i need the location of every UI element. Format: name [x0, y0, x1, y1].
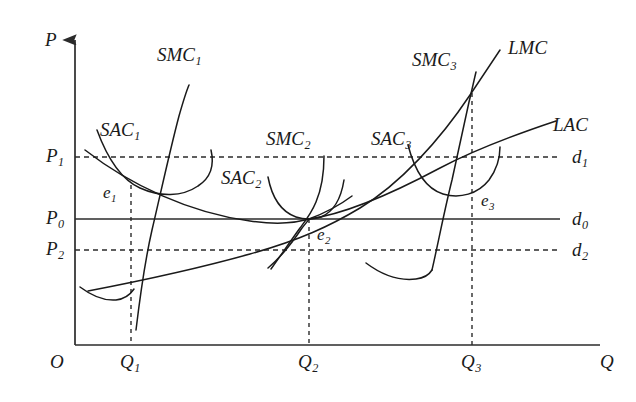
- origin-label: O: [50, 352, 64, 371]
- curve-smc-1: [136, 85, 189, 330]
- demand-label-d2: d2: [572, 240, 588, 259]
- curve-smc-3: [432, 72, 476, 270]
- curve-label-smc-2: SMC2: [266, 129, 310, 148]
- curve-label-lmc: LMC: [508, 38, 547, 57]
- curve-lmc: [88, 50, 500, 291]
- curve-label-smc-1: SMC1: [157, 45, 201, 64]
- diagram-canvas: [0, 0, 636, 402]
- curve-plant1-base: [80, 287, 134, 300]
- price-tick-p1: P1: [46, 146, 64, 165]
- x-axis-label: Q: [600, 352, 614, 371]
- curve-label-sac-3: SAC3: [371, 129, 411, 148]
- quantity-tick-q3: Q3: [461, 352, 481, 371]
- equilibrium-label-e3: e3: [481, 192, 494, 209]
- curve-label-sac-2: SAC2: [221, 168, 261, 187]
- quantity-tick-q2: Q2: [298, 352, 318, 371]
- curve-sac-2: [268, 177, 344, 219]
- curve-label-sac-1: SAC1: [100, 120, 140, 139]
- quantity-tick-q1: Q1: [120, 352, 140, 371]
- price-tick-p0: P0: [46, 208, 64, 227]
- price-tick-p2: P2: [46, 239, 64, 258]
- equilibrium-label-e2: e2: [317, 226, 330, 243]
- curve-plant3-base: [366, 263, 432, 279]
- economics-diagram: P Q O P1 P0 P2 Q1 Q2 Q3 d1 d0 d2 SMC1 SA…: [0, 0, 636, 402]
- equilibrium-label-e1: e1: [103, 184, 116, 201]
- curve-label-lac: LAC: [553, 115, 588, 134]
- demand-label-d1: d1: [572, 147, 588, 166]
- curve-label-smc-3: SMC3: [412, 50, 456, 69]
- y-axis-label: P: [45, 30, 57, 49]
- curve-smc-2: [271, 156, 324, 269]
- demand-label-d0: d0: [572, 209, 588, 228]
